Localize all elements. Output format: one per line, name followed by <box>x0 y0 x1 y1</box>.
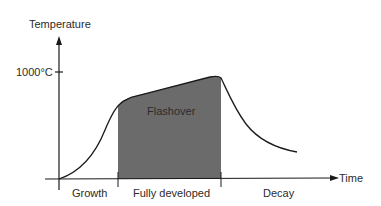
x-axis-arrowhead <box>330 175 339 181</box>
fully-developed-shaded-region <box>118 76 221 179</box>
phase-label-growth: Growth <box>72 187 107 199</box>
y-axis-arrowhead <box>56 36 62 45</box>
phase-label-decay: Decay <box>263 187 295 199</box>
flashover-label: Flashover <box>147 105 196 117</box>
phase-label-fully-developed: Fully developed <box>133 187 210 199</box>
x-axis-label: Time <box>339 172 363 184</box>
y-tick-label: 1000°C <box>16 66 53 78</box>
fire-development-diagram: Temperature 1000°C Time Flashover Growth… <box>0 0 381 206</box>
y-axis-label: Temperature <box>29 18 91 30</box>
x-axis <box>45 178 331 179</box>
